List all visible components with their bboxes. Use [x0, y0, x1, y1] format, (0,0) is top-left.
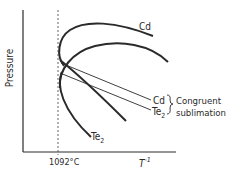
cd-line-label: Cd [153, 95, 165, 106]
te2-line-label: Te2 [151, 106, 165, 120]
cd-secondary-curve [60, 43, 168, 88]
brace-icon [167, 95, 173, 114]
cd-congruent-line [61, 63, 151, 100]
annotation-line1: Congruent [176, 95, 222, 106]
y-axis-label: Pressure [4, 48, 15, 87]
annotation-line2: sublimation [176, 107, 226, 118]
temperature-marker-label: 1092°C [49, 157, 80, 167]
te2-congruent-line [60, 73, 151, 110]
te2-curve-label: Te2 [90, 131, 104, 145]
x-axis-label: T-1 [139, 156, 151, 169]
phase-diagram: Pressure Cd Te2 Cd Te2 Congruent sublima… [0, 0, 241, 173]
cd-curve-label: Cd [139, 21, 151, 32]
